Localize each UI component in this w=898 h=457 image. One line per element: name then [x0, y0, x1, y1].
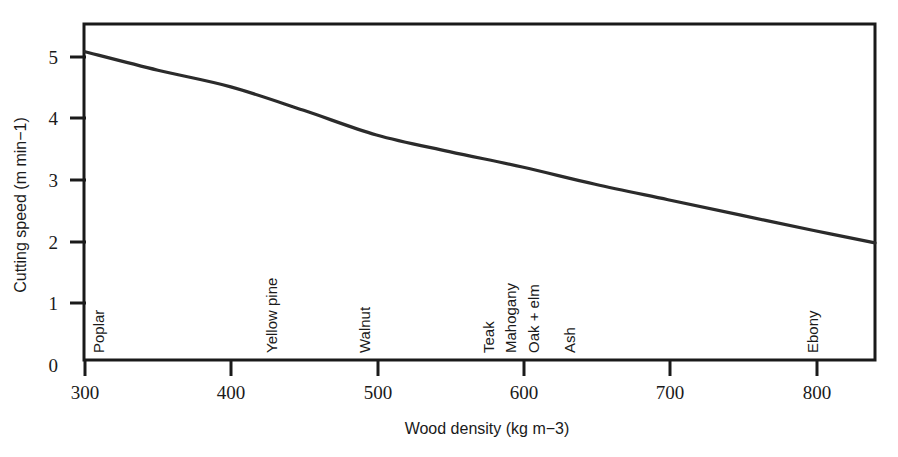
- species-label-ebony: Ebony: [804, 310, 821, 353]
- y-axis-title: Cutting speed (m min−1): [12, 117, 29, 293]
- y-tick-label: 1: [49, 293, 59, 314]
- y-tick-label: 3: [49, 170, 59, 191]
- species-label-mahogany: Mahogany: [502, 282, 519, 353]
- species-label-ash: Ash: [561, 327, 578, 353]
- species-label-yellow-pine: Yellow pine: [263, 278, 280, 353]
- species-label-poplar: Poplar: [90, 310, 107, 353]
- species-label-oak-elm: Oak + elm: [525, 284, 542, 353]
- x-tick-label: 800: [803, 382, 832, 403]
- x-tick-label: 600: [510, 382, 539, 403]
- x-tick-label: 700: [656, 382, 685, 403]
- cutting-speed-chart: 5 4 3 2 1 0 Cutting speed (m min−1) 300 …: [0, 0, 898, 457]
- y-tick-label: 5: [49, 47, 59, 68]
- y-tick-label: 0: [49, 355, 59, 376]
- species-label-teak: Teak: [480, 321, 497, 353]
- chart-background: [0, 0, 898, 457]
- chart-page: 5 4 3 2 1 0 Cutting speed (m min−1) 300 …: [0, 0, 898, 457]
- y-tick-label: 4: [49, 108, 59, 129]
- x-tick-label: 500: [364, 382, 393, 403]
- y-tick-label: 2: [49, 232, 59, 253]
- x-tick-label: 300: [71, 382, 100, 403]
- species-label-walnut: Walnut: [356, 306, 373, 353]
- x-axis-title: Wood density (kg m−3): [405, 420, 570, 437]
- x-tick-label: 400: [217, 382, 246, 403]
